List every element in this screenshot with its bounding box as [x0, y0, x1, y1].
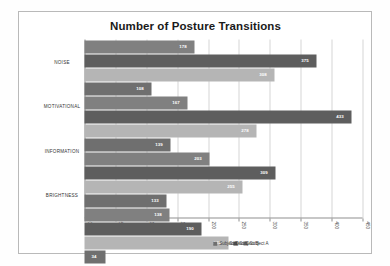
legend-label: Subject D	[219, 240, 239, 245]
bar: 138	[84, 208, 169, 221]
bar: 190	[84, 222, 201, 235]
bar-group: 167433278139	[84, 95, 362, 151]
x-category-label-text: NOISE	[54, 59, 70, 64]
bar: 233	[84, 236, 228, 249]
legend-swatch	[213, 241, 217, 245]
bar-value-label: 375	[300, 57, 307, 62]
x-category-label: INFORMATION	[59, 129, 82, 174]
bar-value-label: 178	[179, 43, 186, 48]
chart-page: Number of Posture Transitions 0501001502…	[0, 0, 390, 266]
chart-legend: Subject ASubject BSubject CSubject D	[223, 230, 258, 260]
bar: 203	[84, 152, 209, 165]
bar: 308	[84, 68, 274, 81]
bar-value-label: 139	[155, 141, 162, 146]
bar: 178	[84, 40, 194, 53]
bar-value-label: 308	[259, 71, 266, 76]
bar: 278	[84, 124, 256, 137]
bar-value-label: 34	[91, 253, 96, 258]
x-category-label: BRIGHTNESS	[59, 173, 82, 218]
bar-value-label: 203	[194, 155, 201, 160]
bar-chart: Number of Posture Transitions 0501001502…	[20, 13, 370, 252]
bar-group: 203309255133	[84, 151, 362, 207]
bar-groups: 1783753081081674332781392033092551331381…	[84, 39, 362, 218]
chart-frame: Number of Posture Transitions 0501001502…	[18, 11, 372, 254]
x-category-label-text: INFORMATION	[44, 148, 79, 153]
plot-canvas: 050100150200250300350400450 178375308108…	[84, 39, 362, 218]
bar-value-label: 167	[172, 99, 179, 104]
bar: 433	[84, 110, 351, 123]
plot-area: 050100150200250300350400450 178375308108…	[84, 39, 362, 218]
bar-value-label: 108	[136, 85, 143, 90]
bar-value-label: 133	[151, 197, 158, 202]
bar-value-label: 433	[336, 113, 343, 118]
y-tick-label: 450	[365, 221, 370, 249]
bar: 255	[84, 180, 242, 193]
bar-group: 178375308108	[84, 39, 362, 95]
y-axis-title: Number of Posture Transitions	[20, 12, 370, 38]
bar: 375	[84, 54, 316, 67]
x-axis-category-labels: NOISEMOTIVATIONALINFORMATIONBRIGHTNESS	[26, 39, 82, 218]
bar-value-label: 309	[260, 169, 267, 174]
rotated-chart-wrapper: Number of Posture Transitions 0501001502…	[20, 13, 370, 252]
x-category-label-text: MOTIVATIONAL	[43, 104, 80, 109]
x-category-label: NOISE	[59, 39, 82, 84]
x-category-label: MOTIVATIONAL	[59, 84, 82, 129]
bar: 133	[84, 194, 166, 207]
bar-value-label: 255	[226, 183, 233, 188]
bar: 139	[84, 138, 170, 151]
bar: 309	[84, 166, 275, 179]
bar: 167	[84, 96, 187, 109]
y-axis-title-text: Number of Posture Transitions	[110, 19, 281, 31]
x-category-label-text: BRIGHTNESS	[45, 193, 77, 198]
bar-value-label: 138	[154, 211, 161, 216]
bar-value-label: 190	[186, 225, 193, 230]
legend-item[interactable]: Subject D	[213, 240, 239, 245]
bar: 34	[84, 250, 105, 263]
bar-value-label: 278	[241, 127, 248, 132]
bar: 108	[84, 82, 151, 95]
